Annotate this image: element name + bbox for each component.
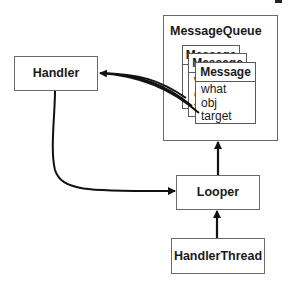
message-header: Message — [196, 63, 255, 82]
field-obj: obj — [201, 97, 232, 111]
handler-thread-box: HandlerThread — [171, 238, 265, 274]
field-target: target — [201, 110, 232, 124]
message-box-front: Message what obj target — [195, 62, 256, 124]
looper-label: Looper — [177, 185, 259, 199]
handler-thread-label: HandlerThread — [172, 249, 264, 263]
handler-label: Handler — [15, 66, 97, 80]
clipped-glyph — [275, 0, 282, 3]
looper-box: Looper — [176, 175, 260, 210]
message-queue-label: MessageQueue — [170, 24, 262, 38]
handler-to-looper-arrow — [53, 91, 175, 191]
handler-box: Handler — [14, 56, 98, 91]
message-fields: what obj target — [201, 83, 232, 124]
field-what: what — [201, 83, 232, 97]
